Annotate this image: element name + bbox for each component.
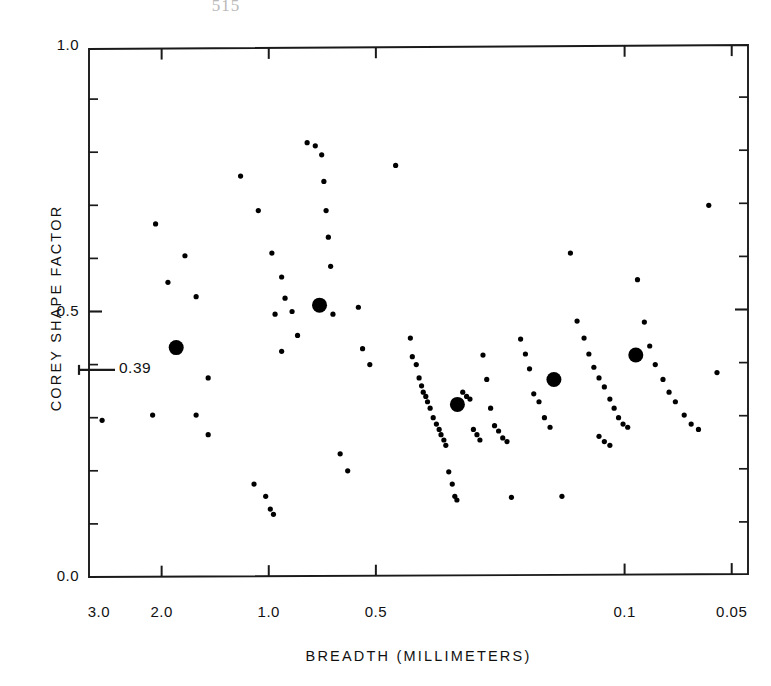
data-point (542, 415, 547, 420)
data-point (450, 397, 465, 412)
data-point (438, 432, 443, 437)
data-point (324, 208, 329, 213)
data-point (206, 432, 211, 437)
data-point (591, 365, 596, 370)
data-point (305, 140, 310, 145)
data-point (454, 497, 459, 502)
data-point (596, 434, 601, 439)
data-point (706, 203, 711, 208)
data-point (446, 469, 451, 474)
figure-container: 515 COREY SHAPE FACTOR BREADTH (MILLIMET… (0, 0, 771, 686)
data-point (673, 399, 678, 404)
y-tick-label-0: 0.0 (23, 567, 79, 584)
data-point (441, 437, 446, 442)
data-point (428, 406, 433, 411)
plot-frame (89, 45, 748, 577)
data-point (628, 348, 643, 363)
data-point (150, 412, 155, 417)
x-tick-label-2: 1.0 (239, 603, 299, 620)
data-point (660, 377, 665, 382)
data-point (282, 296, 287, 301)
x-axis-title: BREADTH (MILLIMETERS) (89, 648, 748, 664)
data-point (153, 221, 158, 226)
data-point (194, 412, 199, 417)
y-tick-label-10: 1.0 (23, 36, 79, 53)
data-point (100, 418, 105, 423)
data-point (182, 253, 187, 258)
x-tick-label-5: 0.05 (702, 603, 762, 620)
x-tick-label-4: 0.1 (595, 603, 655, 620)
data-point (272, 312, 277, 317)
data-point (425, 399, 430, 404)
data-point (423, 394, 428, 399)
x-tick-label-3: 0.5 (346, 603, 406, 620)
data-point (312, 298, 327, 313)
data-point (488, 406, 493, 411)
data-point (431, 415, 436, 420)
data-point (635, 277, 640, 282)
series-group-means (169, 298, 644, 412)
data-point (518, 337, 523, 342)
data-point (295, 333, 300, 338)
data-point (620, 421, 625, 426)
data-point (474, 432, 479, 437)
data-point (477, 437, 482, 442)
data-point (607, 397, 612, 402)
page-number: 515 (186, 0, 266, 16)
data-point (169, 340, 184, 355)
data-point (496, 428, 501, 433)
data-point (574, 318, 579, 323)
data-point (321, 179, 326, 184)
data-point (547, 425, 552, 430)
data-point (313, 143, 318, 148)
data-point (460, 390, 465, 395)
data-point (450, 481, 455, 486)
data-point (434, 421, 439, 426)
data-point (714, 370, 719, 375)
data-point (666, 390, 671, 395)
data-point (443, 443, 448, 448)
data-point (602, 439, 607, 444)
data-point (531, 391, 536, 396)
data-point (536, 399, 541, 404)
data-point (256, 208, 261, 213)
data-point (356, 305, 361, 310)
x-tick-label-1: 2.0 (132, 603, 192, 620)
data-point (467, 397, 472, 402)
data-point (492, 423, 497, 428)
data-point (602, 384, 607, 389)
data-point (647, 343, 652, 348)
data-point (319, 152, 324, 157)
data-point (238, 173, 243, 178)
data-point (367, 362, 372, 367)
data-point (484, 377, 489, 382)
data-point (268, 506, 273, 511)
scatter-plot (0, 0, 771, 686)
data-point (689, 421, 694, 426)
data-point (437, 427, 442, 432)
data-point (616, 415, 621, 420)
data-point (653, 362, 658, 367)
data-point (279, 349, 284, 354)
x-tick-label-0: 3.0 (69, 603, 129, 620)
data-point (279, 274, 284, 279)
data-point (345, 468, 350, 473)
annotation-label-mean-shape-factor: 0.39 (119, 359, 151, 377)
data-point (504, 439, 509, 444)
data-point (586, 351, 591, 356)
data-point (509, 495, 514, 500)
data-point (251, 481, 256, 486)
data-point (527, 366, 532, 371)
data-point (338, 451, 343, 456)
data-point (612, 406, 617, 411)
data-point (360, 346, 365, 351)
data-point (393, 163, 398, 168)
data-point (408, 335, 413, 340)
data-point (642, 320, 647, 325)
data-point (559, 494, 564, 499)
data-point (289, 309, 294, 314)
data-point (417, 375, 422, 380)
data-point (165, 280, 170, 285)
data-point (480, 352, 485, 357)
data-point (328, 264, 333, 269)
